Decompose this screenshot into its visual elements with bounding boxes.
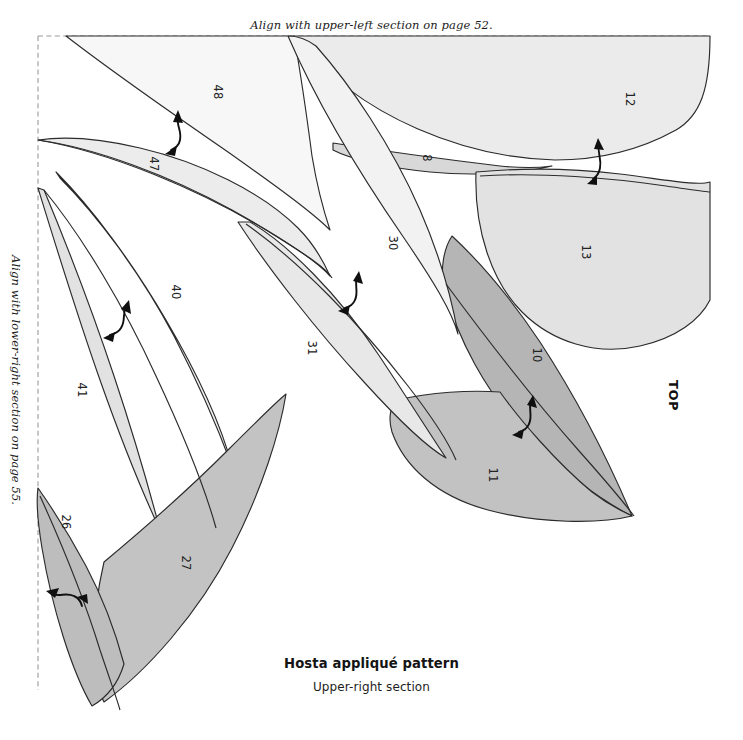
piece-number-47: 47 xyxy=(147,156,161,171)
piece-number-10: 10 xyxy=(530,347,544,362)
applique-pattern-diagram: 48 47 12 8 13 30 40 41 31 10 11 26 27 xyxy=(0,0,743,740)
pattern-page: Align with upper-left section on page 52… xyxy=(0,0,743,740)
placement-arrow-47-48 xyxy=(165,110,183,156)
piece-number-13: 13 xyxy=(579,244,593,259)
seam-40-41 xyxy=(44,190,216,528)
piece-number-40: 40 xyxy=(169,284,183,299)
placement-arrow-40-41 xyxy=(103,300,131,342)
piece-number-31: 31 xyxy=(305,340,319,355)
piece-number-41: 41 xyxy=(75,382,89,397)
piece-number-12: 12 xyxy=(623,91,637,106)
piece-number-30: 30 xyxy=(386,235,400,250)
piece-41[interactable] xyxy=(38,188,160,530)
piece-number-26: 26 xyxy=(59,514,73,529)
piece-number-8: 8 xyxy=(420,154,434,162)
page-subtitle: Upper-right section xyxy=(0,680,743,694)
piece-number-48: 48 xyxy=(211,84,225,99)
page-title: Hosta appliqué pattern xyxy=(0,656,743,671)
piece-number-27: 27 xyxy=(179,555,193,570)
piece-number-11: 11 xyxy=(486,467,500,482)
piece-48[interactable] xyxy=(66,36,330,230)
